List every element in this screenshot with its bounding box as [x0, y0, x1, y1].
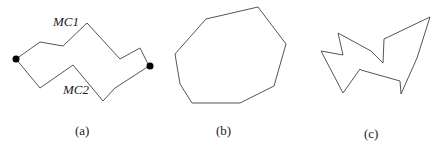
label-mc1: MC1 — [53, 14, 79, 30]
right-endpoint-dot — [147, 63, 154, 70]
caption-b: (b) — [216, 123, 231, 139]
label-mc2: MC2 — [63, 82, 89, 98]
left-endpoint-dot — [13, 56, 20, 63]
caption-c: (c) — [364, 126, 378, 142]
caption-a: (a) — [75, 123, 89, 139]
chain-mc1 — [16, 23, 149, 66]
concave-polygon — [321, 17, 430, 94]
convex-polygon — [175, 7, 286, 103]
